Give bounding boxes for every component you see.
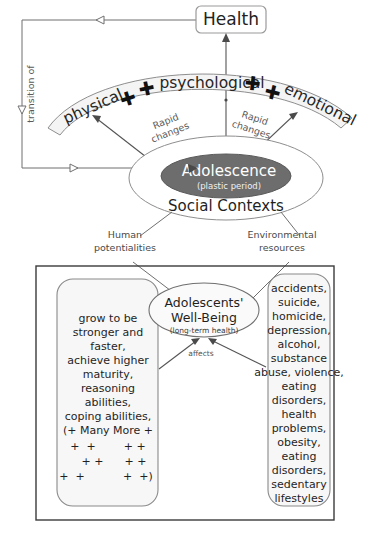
feedback-arrowhead-top bbox=[96, 16, 104, 24]
list-item: alcohol, bbox=[278, 338, 321, 351]
list-item: sedentary bbox=[271, 478, 327, 491]
feedback-loop-label: transition of bbox=[25, 65, 36, 123]
node-environmental-resources-line2: resources bbox=[259, 242, 305, 253]
node-environmental-resources-line1: Environmental bbox=[247, 229, 316, 240]
list-item: grow to be bbox=[79, 312, 138, 325]
rapid-changes-label-right: Rapid changes bbox=[231, 106, 276, 140]
list-item: eating bbox=[282, 380, 317, 393]
affects-arrow-right-head bbox=[208, 338, 217, 345]
plus-row: + + + + bbox=[82, 455, 147, 468]
wellbeing-label-line1: Adolescents' bbox=[165, 295, 244, 310]
list-item: reasoning bbox=[81, 382, 135, 395]
plus-row: + + + +) bbox=[59, 470, 153, 483]
adolescence-sublabel: (plastic period) bbox=[197, 181, 261, 191]
list-item: eating bbox=[282, 450, 317, 463]
arc-to-health-arrowhead bbox=[222, 33, 230, 42]
node-human-potentialities-line2: potentialities bbox=[94, 242, 156, 253]
health-node-label: Health bbox=[203, 9, 259, 29]
list-item: suicide, bbox=[278, 296, 320, 309]
wellbeing-label-line2: Well-Being bbox=[171, 310, 237, 325]
rapid-changes-label-left: Rapid changes bbox=[145, 108, 191, 144]
list-item: obesity, bbox=[277, 436, 321, 449]
arc-label-emotional: emotional bbox=[281, 79, 359, 129]
rapid-left-arrowhead bbox=[92, 115, 101, 123]
list-item: abuse, violence, bbox=[254, 366, 344, 379]
list-item: (+ Many More + bbox=[63, 424, 153, 437]
list-item: lifestyles bbox=[275, 492, 324, 505]
health-node: Health bbox=[196, 6, 266, 33]
list-item: substance bbox=[271, 352, 327, 365]
list-item: abilities, bbox=[85, 396, 131, 409]
human-potentialities-connector-up bbox=[140, 212, 172, 236]
list-item: health bbox=[282, 408, 317, 421]
affects-arrow-right-line bbox=[213, 341, 266, 367]
arc-band-group: physical ✚ ✚ psychological ✚ ✚ emotional bbox=[48, 71, 359, 135]
arc-label-physical: physical bbox=[60, 85, 125, 127]
wellbeing-sublabel: (long-term health) bbox=[170, 326, 239, 335]
list-item: depression, bbox=[267, 324, 331, 337]
list-item: disorders, bbox=[272, 394, 326, 407]
list-item: stronger and bbox=[73, 326, 144, 339]
diagram-canvas: transition of Health physical ✚ ✚ psycho… bbox=[0, 0, 371, 533]
list-item: coping abilities, bbox=[65, 410, 152, 423]
wellbeing-node: Adolescents' Well-Being (long-term healt… bbox=[149, 283, 259, 337]
arc-plus-icon-3: ✚ bbox=[244, 71, 262, 95]
affects-arrows-group: affects bbox=[159, 338, 266, 369]
social-contexts-label: Social Contexts bbox=[168, 197, 284, 215]
list-item: problems, bbox=[272, 422, 327, 435]
feedback-arrowhead-bottom bbox=[70, 164, 78, 172]
rapid-left-line bbox=[96, 118, 150, 160]
list-item: accidents, bbox=[271, 282, 327, 295]
list-item: disorders, bbox=[272, 464, 326, 477]
adolescence-node: Adolescence (plastic period) bbox=[161, 154, 291, 198]
list-item: maturity, bbox=[83, 368, 134, 381]
list-item: achieve higher bbox=[67, 354, 149, 367]
affects-label: affects bbox=[188, 349, 213, 358]
diagram-svg: transition of Health physical ✚ ✚ psycho… bbox=[0, 0, 371, 533]
list-item: faster, bbox=[90, 340, 125, 353]
node-human-potentialities-line1: Human bbox=[108, 229, 142, 240]
adolescence-label: Adolescence bbox=[182, 162, 276, 180]
plus-row: + + + + bbox=[70, 440, 145, 453]
rapid-center-dot bbox=[224, 98, 227, 101]
list-item: homicide, bbox=[272, 310, 326, 323]
